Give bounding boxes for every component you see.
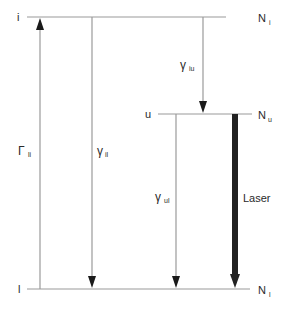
svg-text:iu: iu <box>189 65 195 72</box>
svg-text:N: N <box>258 12 266 24</box>
population-label-l: N l <box>258 284 271 298</box>
transition-gamma-li-label: Γ li <box>18 144 32 158</box>
svg-text:li: li <box>28 151 32 158</box>
arrowhead-down-icon <box>230 274 240 288</box>
transition-laser-arrow <box>230 114 240 288</box>
transition-laser-label: Laser <box>243 192 271 204</box>
svg-text:Γ: Γ <box>18 144 25 158</box>
svg-text:γ: γ <box>97 144 103 158</box>
svg-text:il: il <box>105 151 109 158</box>
level-u-label: u <box>145 108 151 120</box>
population-label-i: N i <box>258 12 271 26</box>
arrowhead-down-icon <box>172 276 180 288</box>
svg-text:γ: γ <box>155 190 161 204</box>
svg-text:N: N <box>258 109 266 121</box>
population-label-u: N u <box>258 109 272 123</box>
transition-gamma-iu-arrow <box>199 17 207 113</box>
level-i-label: i <box>17 11 19 23</box>
svg-text:l: l <box>269 291 271 298</box>
arrowhead-up-icon <box>36 18 44 30</box>
transition-gamma-il-label: γ il <box>97 144 109 158</box>
arrowhead-down-icon <box>88 276 96 288</box>
transition-gamma-ul-arrow <box>172 114 180 288</box>
svg-text:N: N <box>258 284 266 296</box>
transition-gamma-ul-label: γ ul <box>155 190 170 204</box>
svg-text:i: i <box>269 19 271 26</box>
transition-gamma-il-arrow <box>88 17 96 288</box>
arrowhead-down-icon <box>199 101 207 113</box>
svg-text:γ: γ <box>180 58 186 72</box>
energy-level-diagram: i u l N i N u N l Γ li γ il γ iu <box>0 0 286 309</box>
transition-gamma-li-arrow <box>36 18 44 289</box>
svg-text:u: u <box>268 116 272 123</box>
level-l-label: l <box>18 283 20 295</box>
transition-gamma-iu-label: γ iu <box>180 58 195 72</box>
svg-text:ul: ul <box>164 197 170 204</box>
